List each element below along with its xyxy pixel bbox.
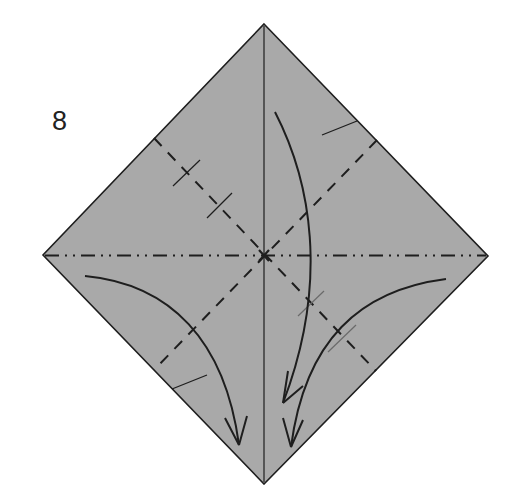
origami-diagram: 8	[0, 0, 526, 485]
diagram-canvas	[0, 0, 526, 485]
